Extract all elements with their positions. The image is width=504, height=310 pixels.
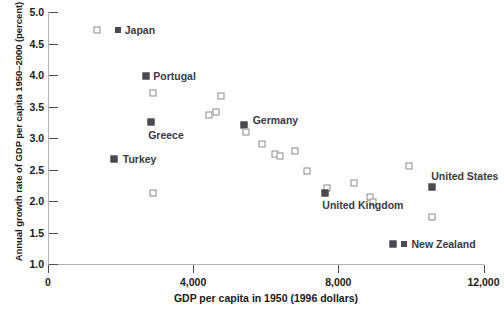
y-tick (49, 12, 58, 13)
y-tick (49, 107, 58, 108)
data-point (213, 108, 220, 115)
x-tick (193, 265, 194, 273)
y-tick (49, 233, 58, 234)
y-tick (49, 264, 58, 265)
y-tick (49, 138, 58, 139)
data-point (259, 141, 266, 148)
data-point (217, 93, 224, 100)
data-point-greece (148, 118, 155, 125)
point-label-greece: Greece (148, 129, 184, 141)
data-point-turkey (111, 156, 118, 163)
data-point (291, 147, 298, 154)
x-tick-label: 0 (13, 276, 83, 288)
point-label-new-zealand: New Zealand (401, 238, 475, 250)
y-tick-label: 4.0 (0, 69, 44, 81)
x-axis-line (48, 264, 484, 265)
data-point-united-states (428, 183, 435, 190)
data-point-portugal (142, 73, 149, 80)
x-tick-label: 8,000 (303, 276, 373, 288)
data-point (350, 180, 357, 187)
point-label-germany: Germany (253, 114, 299, 126)
x-tick-label: 4,000 (158, 276, 228, 288)
y-tick-label: 4.5 (0, 38, 44, 50)
point-label-japan: Japan (115, 24, 155, 36)
scatter-chart: Annual growth rate of GDP per capita 195… (0, 0, 504, 310)
x-tick (338, 265, 339, 273)
y-tick-label: 5.0 (0, 6, 44, 18)
y-tick-label: 3.0 (0, 132, 44, 144)
data-point (206, 111, 213, 118)
y-tick (49, 75, 58, 76)
point-label-turkey: Turkey (123, 153, 157, 165)
x-axis-title: GDP per capita in 1950 (1996 dollars) (48, 292, 484, 304)
data-point (406, 163, 413, 170)
data-point (149, 89, 156, 96)
point-label-portugal: Portugal (153, 70, 196, 82)
y-tick-label: 1.5 (0, 227, 44, 239)
data-point-germany (240, 122, 247, 129)
data-point (276, 152, 283, 159)
data-point-new-zealand (389, 240, 396, 247)
y-tick (49, 44, 58, 45)
y-tick (49, 170, 58, 171)
x-tick (48, 265, 49, 273)
data-point-united-kingdom (321, 190, 328, 197)
y-tick-label: 1.0 (0, 258, 44, 270)
data-point-japan (94, 27, 101, 34)
data-point (428, 213, 435, 220)
y-tick (49, 201, 58, 202)
x-tick (484, 265, 485, 273)
data-point (243, 129, 250, 136)
data-point (149, 189, 156, 196)
point-label-united-kingdom: United Kingdom (322, 199, 403, 211)
y-tick-label: 2.5 (0, 164, 44, 176)
data-point (304, 168, 311, 175)
y-tick-label: 2.0 (0, 195, 44, 207)
point-label-united-states: United States (431, 170, 498, 182)
y-tick-label: 3.5 (0, 101, 44, 113)
x-tick-label: 12,000 (449, 276, 504, 288)
